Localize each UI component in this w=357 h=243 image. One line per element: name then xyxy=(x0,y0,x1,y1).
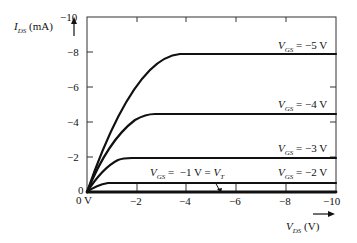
x-axis-label-unit: (V) xyxy=(301,220,319,232)
label-symbol: V xyxy=(278,39,285,51)
label-subscript: GS xyxy=(157,173,166,181)
top-ticks xyxy=(137,17,286,22)
x-axis-arrow-icon xyxy=(313,211,335,217)
x-tick-label: −4 xyxy=(179,195,191,207)
x-axis-label-symbol: V xyxy=(286,220,293,232)
label-symbol: V xyxy=(278,142,285,154)
vt-subscript: T xyxy=(220,173,224,181)
y-axis-label-subscript: DS xyxy=(18,27,27,35)
label-value: = −3 V xyxy=(293,142,327,154)
x-tick-label: −10 xyxy=(323,195,340,207)
right-ticks xyxy=(330,87,336,157)
y-tick-label: −8 xyxy=(67,46,79,58)
label-vgs-minus-2: VGS = −2 V xyxy=(278,166,327,181)
x-tick-label: −8 xyxy=(279,195,291,207)
y-tick-label: −6 xyxy=(67,81,79,93)
label-symbol: V xyxy=(150,166,157,178)
label-vgs-minus-1-vt: VGS = −1 V = VT xyxy=(150,166,224,181)
x-tick-label: −2 xyxy=(130,195,142,207)
label-subscript: GS xyxy=(285,105,294,113)
y-tick-label: −4 xyxy=(67,116,79,128)
y-tick-label: −2 xyxy=(67,151,79,163)
label-value: = −4 V xyxy=(293,98,327,110)
left-ticks xyxy=(87,52,93,157)
y-axis-label-unit: (mA) xyxy=(26,20,53,32)
label-vgs-minus-3: VGS = −3 V xyxy=(278,142,327,157)
label-subscript: GS xyxy=(285,149,294,157)
label-value: = −5 V xyxy=(293,39,327,51)
label-value: = −2 V xyxy=(293,166,327,178)
label-vgs-minus-4: VGS = −4 V xyxy=(278,98,327,113)
label-symbol: V xyxy=(278,166,285,178)
x-tick-label: 0 V xyxy=(76,194,92,206)
x-tick-label: −6 xyxy=(229,195,241,207)
label-subscript: GS xyxy=(285,46,294,54)
label-symbol: V xyxy=(278,98,285,110)
label-subscript: GS xyxy=(285,173,294,181)
label-vgs-minus-5: VGS = −5 V xyxy=(278,39,327,54)
y-tick-label: −10 xyxy=(60,11,77,23)
label-value: = −1 V = xyxy=(165,166,213,178)
y-axis-label: IDS (mA) xyxy=(14,20,53,35)
x-axis-label-subscript: DS xyxy=(293,227,302,235)
x-axis-label: VDS (V) xyxy=(286,220,319,235)
